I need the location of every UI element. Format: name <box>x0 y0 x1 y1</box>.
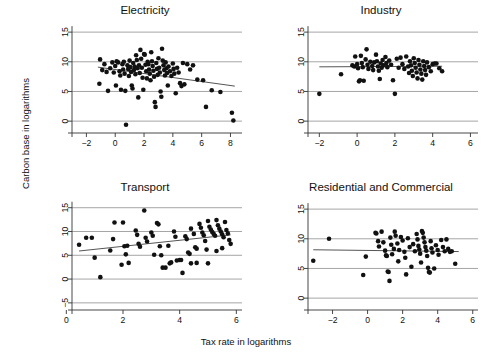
figure-panel-grid: Carbon base in logarithms Electricity 05… <box>0 0 492 357</box>
svg-text:15: 15 <box>296 27 306 37</box>
scatter-plot-electricity: 051015−202468 <box>46 4 244 168</box>
svg-text:10: 10 <box>60 226 70 236</box>
svg-text:2: 2 <box>121 315 126 325</box>
panel-electricity: Electricity 051015−202468 <box>46 4 244 168</box>
svg-text:0: 0 <box>60 276 70 281</box>
panel-residential-commercial: Residential and Commercial 051015−20246 <box>282 181 480 345</box>
svg-text:−2: −2 <box>82 138 92 148</box>
svg-text:4: 4 <box>430 138 435 148</box>
svg-text:0: 0 <box>64 315 69 325</box>
svg-text:0: 0 <box>296 119 306 124</box>
svg-text:2: 2 <box>400 315 405 325</box>
svg-text:0: 0 <box>365 315 370 325</box>
svg-text:8: 8 <box>228 138 233 148</box>
svg-text:10: 10 <box>60 57 70 67</box>
svg-text:15: 15 <box>60 203 70 213</box>
svg-text:0: 0 <box>355 138 360 148</box>
svg-text:4: 4 <box>435 315 440 325</box>
panel-transport: Transport −50510150246 <box>46 181 244 345</box>
svg-text:10: 10 <box>296 57 306 67</box>
svg-text:2: 2 <box>142 138 147 148</box>
svg-text:5: 5 <box>60 89 70 94</box>
scatter-plot-industry: 051015−20246 <box>282 4 480 168</box>
svg-text:5: 5 <box>296 266 306 271</box>
svg-text:6: 6 <box>468 138 473 148</box>
svg-text:5: 5 <box>296 89 306 94</box>
svg-text:10: 10 <box>296 234 306 244</box>
figure-y-axis-label: Carbon base in logarithms <box>20 54 31 214</box>
svg-text:−2: −2 <box>328 315 338 325</box>
svg-text:6: 6 <box>470 315 475 325</box>
svg-text:15: 15 <box>296 204 306 214</box>
svg-text:4: 4 <box>177 315 182 325</box>
figure-x-axis-label: Tax rate in logarithms <box>0 336 492 347</box>
svg-text:6: 6 <box>234 315 239 325</box>
svg-text:6: 6 <box>199 138 204 148</box>
svg-text:0: 0 <box>60 119 70 124</box>
svg-text:0: 0 <box>113 138 118 148</box>
svg-text:0: 0 <box>296 296 306 301</box>
scatter-plot-transport: −50510150246 <box>46 181 244 345</box>
svg-text:−5: −5 <box>60 298 70 308</box>
panel-industry: Industry 051015−20246 <box>282 4 480 168</box>
scatter-plot-residential-commercial: 051015−20246 <box>282 181 480 345</box>
svg-text:4: 4 <box>170 138 175 148</box>
svg-text:15: 15 <box>60 27 70 37</box>
svg-text:5: 5 <box>60 253 70 258</box>
svg-text:2: 2 <box>392 138 397 148</box>
svg-text:−2: −2 <box>314 138 324 148</box>
